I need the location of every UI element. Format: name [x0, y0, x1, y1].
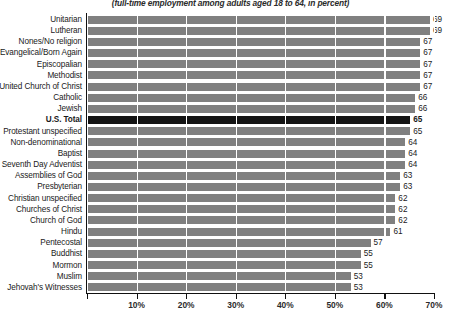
x-tick-label: 20% — [178, 300, 195, 310]
bar — [88, 205, 395, 213]
x-tick-label: 30% — [227, 300, 244, 310]
value-label: 67 — [423, 70, 432, 81]
value-label: 66 — [418, 103, 427, 114]
bar — [88, 172, 400, 180]
value-label: 64 — [408, 137, 417, 148]
gridline — [384, 14, 385, 293]
bar-row: Nones/No religion67 — [0, 36, 461, 47]
category-label: Catholic — [0, 92, 82, 103]
bar-row: Churches of Christ62 — [0, 204, 461, 215]
category-label: Methodist — [0, 70, 82, 81]
category-label: Lutheran — [0, 25, 82, 36]
bar — [88, 283, 351, 291]
x-tick — [285, 294, 286, 299]
value-label: 55 — [364, 248, 373, 259]
category-label: Pentecostal — [0, 237, 82, 248]
category-label: Christian unspecified — [0, 193, 82, 204]
bar-row: Catholic66 — [0, 92, 461, 103]
bar-row: Evangelical/Born Again67 — [0, 47, 461, 58]
value-label: 62 — [398, 215, 407, 226]
value-label: 62 — [398, 204, 407, 215]
value-label: 66 — [418, 92, 427, 103]
bar — [88, 272, 351, 280]
category-label: U.S. Total — [0, 114, 82, 125]
x-tick-label: 50% — [326, 300, 343, 310]
bar — [88, 183, 400, 191]
gridline — [236, 14, 237, 293]
gridline — [434, 14, 435, 293]
value-label: 65 — [413, 126, 422, 137]
value-label: 67 — [423, 47, 432, 58]
bar-row: Muslim53 — [0, 271, 461, 282]
bar — [88, 250, 361, 258]
category-label: Hindu — [0, 226, 82, 237]
x-tick — [335, 294, 336, 299]
x-tick-label: 40% — [277, 300, 294, 310]
bar-row: United Church of Christ67 — [0, 81, 461, 92]
bar — [88, 49, 420, 57]
bar — [88, 16, 430, 24]
bar-row: Mormon55 — [0, 260, 461, 271]
bar-row: Presbyterian63 — [0, 181, 461, 192]
value-label: 55 — [364, 260, 373, 271]
x-tick-label: 70% — [426, 300, 443, 310]
bar-row: Jewish66 — [0, 103, 461, 114]
category-label: Protestant unspecified — [0, 126, 82, 137]
value-label: 63 — [403, 170, 412, 181]
category-label: Church of God — [0, 215, 82, 226]
x-tick — [87, 294, 88, 299]
value-label: 53 — [354, 282, 363, 293]
category-label: Non-denominational — [0, 137, 82, 148]
bar-row: Church of God62 — [0, 215, 461, 226]
bar — [88, 239, 371, 247]
bar-chart: (full-time employment among adults aged … — [0, 0, 461, 323]
bar — [88, 83, 420, 91]
value-label: 57 — [374, 237, 383, 248]
category-label: Muslim — [0, 271, 82, 282]
bar-row: Seventh Day Adventist64 — [0, 159, 461, 170]
chart-subtitle: (full-time employment among adults aged … — [0, 0, 461, 8]
x-axis-line — [86, 293, 435, 294]
gridline — [137, 14, 138, 293]
value-label: 67 — [423, 36, 432, 47]
x-tick-label: 10% — [128, 300, 145, 310]
bar-row: Jehovah's Witnesses53 — [0, 282, 461, 293]
bar-row: Protestant unspecified65 — [0, 126, 461, 137]
bar-row: U.S. Total65 — [0, 114, 461, 125]
bar — [88, 261, 361, 269]
bar — [88, 60, 420, 68]
value-label: 64 — [408, 148, 417, 159]
category-label: Baptist — [0, 148, 82, 159]
category-label: Mormon — [0, 260, 82, 271]
bar-row: Pentecostal57 — [0, 237, 461, 248]
bar-row: Buddhist55 — [0, 248, 461, 259]
category-label: Assemblies of God — [0, 170, 82, 181]
value-label: 63 — [403, 181, 412, 192]
category-label: Evangelical/Born Again — [0, 47, 82, 58]
bar — [88, 228, 390, 236]
category-label: Jehovah's Witnesses — [0, 282, 82, 293]
gridline — [335, 14, 336, 293]
bar — [88, 194, 395, 202]
x-tick — [434, 294, 435, 299]
x-tick — [384, 294, 385, 299]
category-label: Unitarian — [0, 14, 82, 25]
bar-row: Episcopalian67 — [0, 59, 461, 70]
category-label: Jewish — [0, 103, 82, 114]
value-label: 62 — [398, 193, 407, 204]
category-label: Seventh Day Adventist — [0, 159, 82, 170]
category-label: Churches of Christ — [0, 204, 82, 215]
category-label: United Church of Christ — [0, 81, 82, 92]
bar — [88, 216, 395, 224]
value-label: 64 — [408, 159, 417, 170]
x-tick-label: 60% — [376, 300, 393, 310]
gridline — [186, 14, 187, 293]
bar-row: Christian unspecified62 — [0, 193, 461, 204]
bar-row: Lutheran69 — [0, 25, 461, 36]
bar — [88, 71, 420, 79]
gridline — [285, 14, 286, 293]
value-label: 65 — [413, 114, 422, 125]
value-label: 67 — [423, 81, 432, 92]
bar-row: Assemblies of God63 — [0, 170, 461, 181]
bar-row: Unitarian69 — [0, 14, 461, 25]
